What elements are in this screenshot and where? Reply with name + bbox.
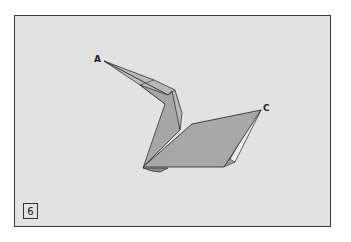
bottom-flap — [143, 168, 168, 172]
origami-figure — [0, 0, 351, 242]
step-number-box: 6 — [23, 203, 38, 219]
point-label-a: A — [94, 54, 101, 64]
step-number: 6 — [27, 206, 33, 217]
point-label-c: C — [263, 103, 270, 113]
